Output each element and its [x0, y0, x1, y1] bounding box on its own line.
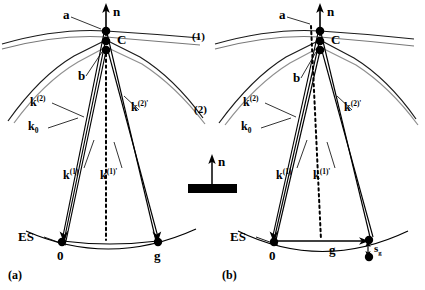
branch2-curve-inner-right-b — [320, 47, 418, 125]
label-g-vector-panel-b: g — [329, 243, 336, 256]
label-normal-inset: n — [218, 155, 225, 168]
label-normal-panel-b: n — [327, 5, 334, 18]
label-k0-panel-b: k0 — [241, 120, 251, 135]
label-center-panel-a: C — [117, 33, 126, 46]
leader-k1p-b — [327, 142, 335, 168]
label-k2-panel-a: k(2) — [30, 95, 45, 108]
branch2-curve-inner — [14, 47, 106, 123]
label-k1-prime-panel-a: k(1)' — [100, 168, 117, 181]
label-ewald-sphere-panel-b: ES — [230, 230, 246, 243]
label-node-a-panel-b: a — [279, 8, 286, 21]
label-normal-panel-a: n — [113, 5, 120, 18]
ewald-arc-a — [26, 229, 196, 249]
label-branch-2-panel-a: (2) — [194, 104, 207, 115]
g-node-b — [365, 236, 373, 244]
figure-canvas — [0, 0, 425, 290]
branch2-curve-outer-right-b — [320, 40, 416, 119]
ewald-sphere-figure: a n C b (1) (2) k(2) k0 k(2)' k(1) k(1)'… — [0, 0, 425, 290]
leader-k1p-a — [114, 142, 122, 168]
ray-k1-a — [66, 51, 106, 241]
branch2-curve-outer-b — [219, 40, 320, 123]
ray-k2-b — [272, 33, 318, 240]
caption-panel-b: (b) — [222, 269, 237, 281]
label-g-node-panel-a: g — [154, 249, 161, 262]
branch2-curve-inner-right — [106, 47, 205, 124]
ray-k1p-a — [108, 51, 159, 241]
label-origin-panel-a: 0 — [57, 249, 64, 262]
label-origin-panel-b: 0 — [269, 249, 276, 262]
label-excitation-error-panel-b: sg — [374, 243, 382, 257]
ewald-intersection-node-b — [365, 253, 373, 261]
ray-k2-a — [62, 33, 104, 241]
ray-k1p-b — [322, 51, 373, 237]
label-node-b-panel-b: b — [293, 71, 300, 84]
leader-k2-b — [265, 103, 296, 117]
node-a-point — [102, 27, 111, 36]
label-center-panel-b: C — [331, 33, 340, 46]
center-inset-graphics — [188, 154, 237, 193]
caption-panel-a: (a) — [8, 269, 22, 281]
label-k2-panel-b: k(2) — [243, 95, 258, 108]
leader-a-a — [71, 17, 101, 29]
label-k2-prime-panel-a: k(2)' — [131, 100, 148, 113]
origin-node-b — [270, 238, 278, 246]
branch2-curve-outer-right — [106, 40, 203, 118]
label-node-a-panel-a: a — [63, 8, 70, 21]
reciprocal-line-a — [62, 241, 158, 244]
leader-k2-a — [52, 103, 84, 117]
specimen-foil — [188, 184, 237, 193]
label-branch-1-panel-a: (1) — [192, 31, 205, 42]
label-node-b-panel-a: b — [78, 69, 85, 82]
leader-a-b — [287, 17, 310, 24]
label-k1-prime-panel-b: k(1)' — [313, 168, 330, 181]
label-k1-panel-a: k(1) — [63, 168, 78, 181]
label-k0-panel-a: k0 — [28, 120, 38, 135]
leader-k0-b — [261, 118, 291, 128]
node-a-point-b — [316, 27, 325, 36]
g-node-a — [154, 238, 162, 246]
label-ewald-sphere-panel-a: ES — [18, 230, 34, 243]
leader-k0-a — [48, 118, 78, 128]
leader-k1-a — [84, 140, 94, 168]
origin-node-a — [58, 238, 66, 246]
label-k1-panel-b: k(1) — [276, 168, 291, 181]
label-k2-prime-panel-b: k(2)' — [344, 100, 361, 113]
